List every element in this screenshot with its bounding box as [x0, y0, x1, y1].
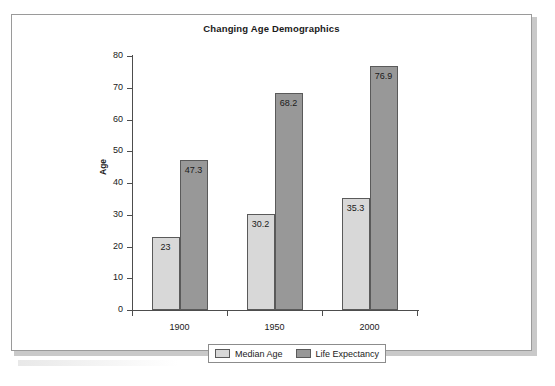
y-tick: 40: [127, 183, 132, 184]
bar-life-expectancy[interactable]: 68.2: [275, 93, 303, 310]
y-tick: 60: [127, 120, 132, 121]
y-tick-label: 0: [118, 304, 123, 314]
chart-legend: Median Age Life Expectancy: [208, 344, 386, 363]
bar-value-label: 23: [153, 242, 179, 252]
bar-value-label: 76.9: [371, 71, 397, 81]
y-tick: 10: [127, 278, 132, 279]
chart-frame: Changing Age Demographics Age 0102030405…: [11, 14, 532, 351]
chart-canvas: Changing Age Demographics Age 0102030405…: [12, 15, 531, 350]
legend-swatch-icon: [215, 349, 230, 358]
bar-value-label: 68.2: [276, 98, 302, 108]
legend-item-median-age: Median Age: [215, 349, 283, 359]
y-tick-label: 20: [113, 241, 123, 251]
legend-swatch-icon: [296, 349, 311, 358]
x-tick: [417, 311, 418, 316]
bar-life-expectancy[interactable]: 76.9: [370, 66, 398, 310]
legend-label: Median Age: [235, 349, 283, 359]
y-tick: 20: [127, 247, 132, 248]
y-tick: 70: [127, 88, 132, 89]
legend-label: Life Expectancy: [316, 349, 380, 359]
bar-value-label: 35.3: [343, 203, 369, 213]
x-tick-label: 1950: [245, 322, 305, 332]
legend-item-life-expectancy: Life Expectancy: [296, 349, 380, 359]
y-axis-line: [132, 55, 133, 313]
bar-value-label: 47.3: [181, 165, 207, 175]
bar-life-expectancy[interactable]: 47.3: [180, 160, 208, 310]
y-tick: 30: [127, 215, 132, 216]
x-tick: [132, 311, 133, 316]
x-axis-line: [132, 310, 419, 311]
y-tick-label: 10: [113, 272, 123, 282]
y-tick-label: 80: [113, 50, 123, 60]
x-tick: [227, 311, 228, 316]
plot-area: 01020304050607080 2347.330.268.235.376.9…: [132, 57, 417, 311]
y-tick: 80: [127, 56, 132, 57]
scan-artifact: [18, 360, 178, 366]
bar-median-age[interactable]: 35.3: [342, 198, 370, 310]
x-tick: [322, 311, 323, 316]
bar-median-age[interactable]: 30.2: [247, 214, 275, 310]
y-axis-title: Age: [98, 159, 108, 175]
bar-value-label: 30.2: [248, 219, 274, 229]
chart-title: Changing Age Demographics: [12, 23, 531, 34]
x-tick-label: 1900: [150, 322, 210, 332]
x-tick-label: 2000: [340, 322, 400, 332]
y-tick: 50: [127, 151, 132, 152]
y-tick-label: 50: [113, 145, 123, 155]
chart-page: Changing Age Demographics Age 0102030405…: [0, 0, 555, 386]
bar-median-age[interactable]: 23: [152, 237, 180, 310]
y-tick-label: 30: [113, 209, 123, 219]
y-tick-label: 40: [113, 177, 123, 187]
y-tick-label: 70: [113, 82, 123, 92]
y-tick-label: 60: [113, 114, 123, 124]
